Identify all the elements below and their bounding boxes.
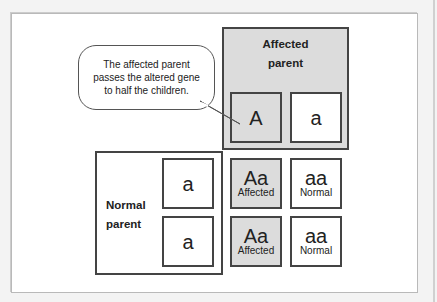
callout-pointer (0, 0, 437, 302)
